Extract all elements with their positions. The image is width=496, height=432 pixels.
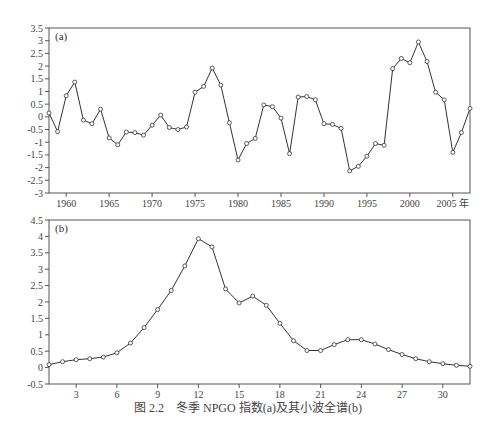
data-point-marker [142, 326, 146, 330]
series-line [49, 239, 470, 367]
data-point-marker [400, 352, 404, 356]
data-point-marker [237, 301, 241, 305]
data-point-marker [167, 126, 171, 130]
y-tick-label: 2 [38, 297, 43, 308]
data-point-marker [133, 131, 137, 135]
data-point-marker [227, 121, 231, 125]
data-point-marker [373, 342, 377, 346]
plot-frame [49, 28, 470, 193]
data-point-marker [73, 80, 77, 84]
data-point-marker [359, 338, 363, 342]
y-tick-label: 4 [38, 231, 43, 242]
data-point-marker [332, 343, 336, 347]
data-point-marker [373, 142, 377, 146]
data-point-marker [210, 245, 214, 249]
data-point-marker [270, 105, 274, 109]
data-point-marker [279, 116, 283, 120]
data-point-marker [425, 60, 429, 64]
y-tick-label: -1.5 [27, 149, 43, 160]
data-point-marker [365, 154, 369, 158]
data-point-marker [468, 364, 472, 368]
figure-caption: 图 2.2 冬季 NPGO 指数(a)及其小波全谱(b) [0, 398, 496, 416]
y-tick-label: -3 [35, 188, 43, 199]
data-point-marker [64, 94, 68, 98]
y-tick-label: 0.5 [31, 99, 44, 110]
x-tick-label: 1960 [56, 198, 76, 209]
y-tick-label: 3 [38, 35, 43, 46]
data-point-marker [454, 363, 458, 367]
y-tick-label: -1 [35, 137, 43, 148]
y-tick-label: -0.5 [27, 379, 43, 390]
data-point-marker [416, 40, 420, 44]
data-point-marker [176, 128, 180, 132]
data-point-marker [313, 98, 317, 102]
x-tick-label: 1990 [314, 198, 334, 209]
data-point-marker [251, 294, 255, 298]
data-point-marker [99, 107, 103, 111]
data-point-marker [331, 122, 335, 126]
data-point-marker [128, 341, 132, 345]
data-point-marker [47, 111, 51, 115]
y-tick-label: 1 [38, 329, 43, 340]
y-tick-label: -0.5 [27, 124, 43, 135]
series-line [49, 42, 470, 171]
data-point-marker [88, 357, 92, 361]
data-point-marker [305, 95, 309, 99]
data-point-marker [253, 136, 257, 140]
data-point-marker [346, 338, 350, 342]
x-tick-label: 1995 [357, 198, 377, 209]
y-tick-label: -2.5 [27, 175, 43, 186]
data-point-marker [408, 61, 412, 65]
y-tick-label: 1.5 [31, 313, 44, 324]
data-point-marker [124, 130, 128, 134]
data-point-marker [459, 131, 463, 135]
data-point-marker [264, 303, 268, 307]
data-point-marker [434, 90, 438, 94]
data-point-marker [74, 358, 78, 362]
data-point-marker [47, 363, 51, 367]
y-tick-label: 0 [38, 362, 43, 373]
x-tick-label: 1980 [228, 198, 248, 209]
data-point-marker [348, 169, 352, 173]
data-point-marker [296, 95, 300, 99]
y-tick-label: 0 [38, 111, 43, 122]
data-point-marker [219, 83, 223, 87]
y-tick-label: 2.5 [31, 48, 44, 59]
panel-label: (a) [55, 30, 68, 43]
y-tick-label: 4.5 [31, 215, 44, 226]
data-point-marker [90, 122, 94, 126]
x-tick-label: 2000 [400, 198, 420, 209]
data-point-marker [184, 125, 188, 129]
data-point-marker [319, 349, 323, 353]
data-point-marker [278, 321, 282, 325]
data-point-marker [356, 164, 360, 168]
y-tick-label: 3.5 [31, 247, 44, 258]
data-point-marker [107, 136, 111, 140]
x-tick-label: 1970 [142, 198, 162, 209]
data-point-marker [115, 351, 119, 355]
data-point-marker [56, 130, 60, 134]
y-tick-label: 1 [38, 86, 43, 97]
data-point-marker [468, 106, 472, 110]
data-point-marker [196, 237, 200, 241]
data-point-marker [391, 67, 395, 71]
data-point-marker [81, 118, 85, 122]
data-point-marker [159, 113, 163, 117]
x-tick-label: 1965 [99, 198, 119, 209]
x-tick-label: 1985 [271, 198, 291, 209]
y-tick-label: -2 [35, 162, 43, 173]
figure: 3.532.521.510.50-0.5-1-1.5-2-2.5-3196019… [0, 0, 496, 432]
y-tick-label: 2.5 [31, 280, 44, 291]
y-tick-label: 3 [38, 264, 43, 275]
data-point-marker [339, 126, 343, 130]
data-point-marker [61, 360, 65, 364]
data-point-marker [245, 142, 249, 146]
data-point-marker [169, 289, 173, 293]
data-point-marker [382, 143, 386, 147]
y-tick-label: 2 [38, 61, 43, 72]
data-point-marker [451, 150, 455, 154]
data-point-marker [150, 123, 154, 127]
data-point-marker [288, 152, 292, 156]
data-point-marker [442, 98, 446, 102]
data-point-marker [427, 360, 431, 364]
